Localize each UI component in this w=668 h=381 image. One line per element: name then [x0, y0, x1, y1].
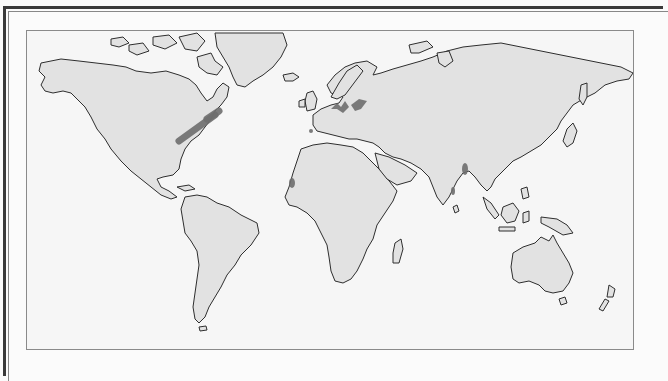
world-map	[27, 31, 634, 350]
australia	[511, 235, 573, 293]
japan	[563, 123, 577, 147]
sri-lanka	[453, 205, 459, 213]
arctic-island	[153, 35, 177, 49]
borneo	[501, 203, 519, 223]
falkland-islands	[199, 326, 207, 331]
arctic-island	[179, 33, 205, 51]
conflict-area-west-africa	[289, 178, 295, 188]
conflict-area-iberia	[309, 129, 313, 133]
tasmania	[559, 297, 567, 305]
south-america	[181, 195, 259, 323]
greenland	[215, 33, 287, 87]
great-britain	[305, 91, 317, 111]
new-zealand-south	[599, 299, 609, 311]
madagascar	[393, 239, 403, 263]
arctic-island	[129, 43, 149, 55]
sumatra	[483, 197, 499, 219]
baffin-island	[197, 53, 223, 75]
new-guinea	[541, 217, 573, 235]
java	[499, 227, 515, 231]
legend: Areas of conflict	[339, 349, 463, 350]
philippines	[521, 187, 529, 199]
conflict-area-india-west	[451, 187, 455, 195]
novaya-zemlya	[409, 41, 433, 53]
ireland	[299, 99, 305, 107]
legend-label: Areas of conflict	[339, 349, 432, 350]
cuba	[177, 185, 195, 191]
arctic-islands	[111, 37, 129, 47]
conflict-area-south-asia	[462, 163, 468, 175]
sulawesi	[523, 211, 529, 223]
iceland	[283, 73, 299, 81]
map-frame: Areas of conflict	[26, 30, 634, 350]
new-zealand	[607, 285, 615, 297]
